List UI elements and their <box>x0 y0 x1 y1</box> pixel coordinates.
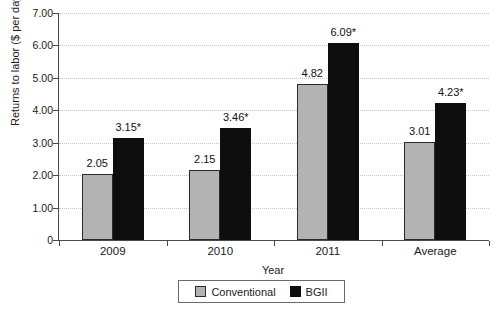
bar-chart: Returns to labor ($ per day) 01.002.003.… <box>0 0 501 318</box>
bar-value-label: 4.23* <box>438 86 464 98</box>
x-axis-tick <box>382 241 383 246</box>
bar-conventional-2010 <box>189 170 220 240</box>
bar-value-label: 2.05 <box>87 157 108 169</box>
y-tick-label: 4.00 <box>13 104 53 116</box>
gridline <box>59 45 489 46</box>
y-tick-label: 6.00 <box>13 39 53 51</box>
bar-value-label: 3.01 <box>409 125 430 137</box>
plot-area: 01.002.003.004.005.006.007.002.053.15*20… <box>58 13 489 241</box>
bar-bgii-2011 <box>328 43 359 240</box>
category-label: 2011 <box>315 245 340 257</box>
bar-bgii-average <box>435 103 466 240</box>
bar-value-label: 3.46* <box>223 111 249 123</box>
y-tick-label: 1.00 <box>13 202 53 214</box>
bar-bgii-2009 <box>113 138 144 240</box>
gridline <box>59 13 489 14</box>
y-axis-tick <box>53 45 58 46</box>
legend-label-conventional: Conventional <box>211 286 275 298</box>
y-tick-label: 7.00 <box>13 7 53 19</box>
legend-swatch-conventional <box>195 286 206 297</box>
legend: Conventional BGII <box>178 280 345 303</box>
bar-value-label: 4.82 <box>302 67 323 79</box>
y-axis-tick <box>53 78 58 79</box>
bar-conventional-2011 <box>297 84 328 240</box>
legend-item-conventional: Conventional <box>195 286 275 298</box>
bar-bgii-2010 <box>220 128 251 240</box>
category-label: 2010 <box>207 245 233 257</box>
x-axis-tick <box>167 241 168 246</box>
gridline <box>59 110 489 111</box>
y-tick-label: 3.00 <box>13 137 53 149</box>
y-tick-label: 2.00 <box>13 169 53 181</box>
bar-value-label: 6.09* <box>330 26 356 38</box>
y-tick-label: 0 <box>13 234 53 246</box>
y-axis-tick <box>53 110 58 111</box>
y-axis-tick <box>53 240 58 241</box>
gridline <box>59 78 489 79</box>
y-axis-tick <box>53 13 58 14</box>
bar-conventional-average <box>404 142 435 240</box>
y-tick-label: 5.00 <box>13 72 53 84</box>
bar-value-label: 2.15 <box>194 153 215 165</box>
legend-label-bgii: BGII <box>306 286 328 298</box>
category-label: Average <box>414 245 457 257</box>
y-axis-tick <box>53 143 58 144</box>
legend-swatch-bgii <box>290 286 301 297</box>
legend-item-bgii: BGII <box>290 286 328 298</box>
x-axis-tick <box>59 241 60 246</box>
category-label: 2009 <box>100 245 126 257</box>
bar-conventional-2009 <box>82 174 113 240</box>
x-axis-title: Year <box>262 264 284 276</box>
x-axis-tick <box>489 241 490 246</box>
y-axis-tick <box>53 208 58 209</box>
bar-value-label: 3.15* <box>115 121 141 133</box>
x-axis-tick <box>274 241 275 246</box>
y-axis-tick <box>53 175 58 176</box>
